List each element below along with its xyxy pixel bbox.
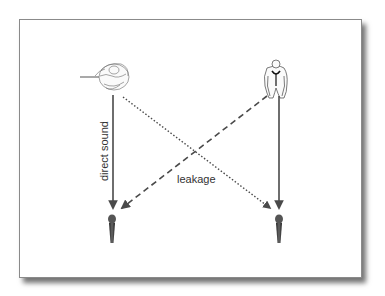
microphone-right-icon (275, 215, 283, 244)
leakage-arrow-dotted (123, 97, 270, 208)
microphone-left-icon (108, 215, 116, 244)
direct-sound-label: direct sound (98, 121, 110, 181)
performer-right-icon (264, 60, 287, 98)
flute-player-icon (80, 64, 129, 90)
leakage-arrow-dashed (122, 96, 267, 208)
diagram-canvas (0, 0, 385, 296)
leakage-label: leakage (177, 173, 216, 185)
